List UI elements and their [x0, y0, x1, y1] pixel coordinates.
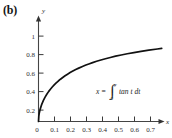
- x-axis: [39, 119, 165, 124]
- x-tick-label-0-1: 0.1: [50, 126, 59, 134]
- x-tick-label-0-6: 0.6: [130, 126, 139, 134]
- x-tick-label-0-5: 0.5: [114, 126, 123, 134]
- y-axis-ticks: [39, 36, 44, 110]
- y-tick-label-0-8: 0.8: [26, 51, 35, 59]
- integral-upper-limit: y: [114, 82, 118, 87]
- integrand-expression: tan t dt: [119, 87, 141, 96]
- x-axis-label: x: [165, 118, 170, 126]
- origin-label: 0: [35, 126, 39, 134]
- x-tick-label-0-4: 0.4: [98, 126, 107, 134]
- y-tick-label-1: 1: [32, 33, 36, 41]
- x-tick-label-0-7: 0.7: [146, 126, 155, 134]
- y-axis: [36, 16, 41, 122]
- x-tick-label-0-2: 0.2: [66, 126, 75, 134]
- y-tick-label-0-2: 0.2: [26, 107, 35, 115]
- y-tick-label-0-6: 0.6: [26, 70, 35, 78]
- curve-series: [39, 48, 162, 121]
- integral-equation-annotation: x = ∫ 0 y tan t dt: [95, 82, 141, 101]
- equation-equals: =: [102, 87, 106, 96]
- x-tick-label-0-3: 0.3: [82, 126, 91, 134]
- y-axis-label: y: [41, 7, 46, 15]
- x-axis-ticks: [55, 117, 151, 122]
- y-tick-label-0-4: 0.4: [26, 88, 35, 96]
- figure-panel-b: (b) 0.2: [0, 0, 172, 138]
- plot-area: 0.2 0.4 0.6 0.8 1 0 0.1 0.2 0.3 0.4 0.5 …: [0, 0, 172, 138]
- equation-lhs: x: [95, 87, 100, 96]
